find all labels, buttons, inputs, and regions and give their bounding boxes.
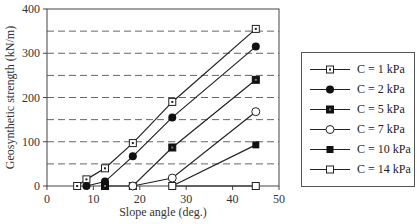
legend: C = 1 kPaC = 2 kPaC = 5 kPaC = 7 kPaC = … bbox=[301, 52, 415, 187]
dot-icon bbox=[255, 28, 257, 30]
legend-item: C = 10 kPa bbox=[302, 142, 416, 157]
open-circle-marker-icon bbox=[252, 108, 260, 116]
x-tick-label: 0 bbox=[44, 192, 50, 206]
dot-icon bbox=[104, 167, 106, 169]
y-tick-label: 100 bbox=[22, 135, 40, 149]
legend-marker-icon bbox=[310, 162, 350, 177]
filled-circle-marker-icon bbox=[252, 43, 260, 51]
legend-item: C = 7 kPa bbox=[302, 122, 416, 137]
x-tick-label: 20 bbox=[134, 192, 146, 206]
legend-label: C = 10 kPa bbox=[357, 142, 411, 157]
dot-icon bbox=[255, 79, 257, 81]
y-tick-label: 400 bbox=[22, 2, 40, 16]
filled-square-marker-icon bbox=[327, 146, 334, 153]
open-square-marker-icon bbox=[169, 183, 176, 190]
open-circle-marker-icon bbox=[326, 126, 334, 134]
filled-circle-marker-icon bbox=[82, 182, 90, 190]
legend-label: C = 14 kPa bbox=[357, 162, 411, 177]
open-circle-marker-icon bbox=[168, 174, 176, 182]
legend-item: C = 14 kPa bbox=[302, 162, 416, 177]
x-tick-label: 50 bbox=[273, 192, 285, 206]
series-2 bbox=[102, 76, 260, 189]
dot-icon bbox=[171, 101, 173, 103]
series-line bbox=[172, 145, 256, 186]
x-tick-label: 10 bbox=[87, 192, 99, 206]
legend-marker-icon bbox=[310, 122, 350, 137]
dot-icon bbox=[104, 185, 106, 187]
y-axis-label: Geosynthetic strength (kN/m) bbox=[3, 26, 17, 169]
dot-icon bbox=[329, 69, 331, 71]
series-line bbox=[105, 80, 256, 186]
y-tick-label: 300 bbox=[22, 46, 40, 60]
dot-icon bbox=[171, 147, 173, 149]
dot-icon bbox=[85, 178, 87, 180]
legend-item: C = 2 kPa bbox=[302, 82, 416, 97]
legend-marker-icon bbox=[310, 62, 350, 77]
dot-icon bbox=[76, 185, 78, 187]
legend-marker-icon bbox=[310, 82, 350, 97]
dot-icon bbox=[132, 142, 134, 144]
legend-label: C = 7 kPa bbox=[357, 122, 405, 137]
legend-label: C = 1 kPa bbox=[357, 62, 405, 77]
y-tick-label: 200 bbox=[22, 91, 40, 105]
dot-icon bbox=[329, 109, 331, 111]
legend-label: C = 2 kPa bbox=[357, 82, 405, 97]
legend-marker-icon bbox=[310, 102, 350, 117]
filled-circle-marker-icon bbox=[326, 86, 334, 94]
x-tick-label: 30 bbox=[180, 192, 192, 206]
series-5 bbox=[169, 183, 260, 190]
x-axis-label: Slope angle (deg.) bbox=[119, 205, 207, 219]
legend-item: C = 1 kPa bbox=[302, 62, 416, 77]
series-0 bbox=[74, 25, 260, 189]
series-line bbox=[77, 29, 256, 186]
open-square-marker-icon bbox=[327, 166, 334, 173]
legend-marker-icon bbox=[310, 142, 350, 157]
filled-circle-marker-icon bbox=[129, 152, 137, 160]
legend-item: C = 5 kPa bbox=[302, 102, 416, 117]
open-circle-marker-icon bbox=[129, 182, 137, 190]
x-tick-label: 40 bbox=[227, 192, 239, 206]
filled-square-marker-icon bbox=[252, 141, 259, 148]
open-square-marker-icon bbox=[252, 183, 259, 190]
series-4 bbox=[169, 141, 260, 189]
series-1 bbox=[82, 43, 259, 190]
y-tick-label: 0 bbox=[34, 179, 40, 193]
filled-circle-marker-icon bbox=[168, 113, 176, 121]
legend-label: C = 5 kPa bbox=[357, 102, 405, 117]
